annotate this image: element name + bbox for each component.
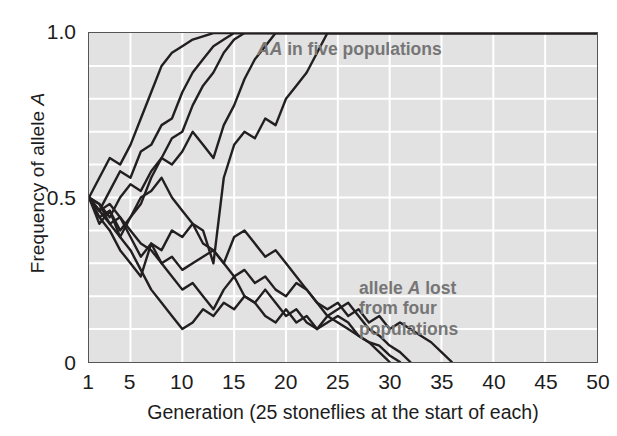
- y-axis-label: Frequency of allele A: [27, 53, 49, 313]
- series-line: [89, 198, 400, 363]
- x-tick-label: 35: [420, 371, 464, 392]
- y-tick-label: 1.0: [0, 21, 76, 42]
- series-line: [89, 198, 390, 363]
- x-tick-label: 25: [316, 371, 360, 392]
- chart-figure: Frequency of allele A 0 0.5 1.0 AA in fi…: [0, 0, 617, 436]
- x-axis-label: Generation (25 stoneflies at the start o…: [88, 401, 598, 424]
- x-tick-label: 30: [368, 371, 412, 392]
- y-tick-label: 0.5: [0, 187, 76, 208]
- plot-area: AA in five populations allele A lostfrom…: [88, 32, 598, 363]
- x-tick-label: 1: [66, 371, 110, 392]
- x-tick-label: 5: [108, 371, 152, 392]
- annotation-lost: allele A lostfrom fourpopulations: [359, 278, 458, 339]
- x-tick-label: 45: [524, 371, 568, 392]
- annotation-fixed: AA in five populations: [257, 39, 442, 59]
- series-line: [89, 33, 597, 263]
- x-tick-label: 15: [212, 371, 256, 392]
- y-tick-label: 0: [0, 352, 76, 373]
- data-lines: [89, 33, 597, 362]
- x-tick-label: 20: [264, 371, 308, 392]
- x-tick-label: 10: [160, 371, 204, 392]
- x-tick-label: 40: [472, 371, 516, 392]
- x-tick-label: 50: [576, 371, 617, 392]
